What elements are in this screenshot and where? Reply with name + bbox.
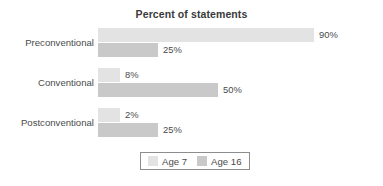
bar-value-age16: 50%	[218, 83, 242, 97]
legend-swatch-icon	[197, 156, 207, 166]
chart-legend: Age 7 Age 16	[140, 152, 250, 170]
chart-title: Percent of statements	[0, 8, 383, 20]
bar-group: Conventional 8% 50%	[0, 68, 383, 98]
bar-group: Preconventional 90% 25%	[0, 28, 383, 58]
bar-value-age16: 25%	[158, 43, 182, 57]
bar-value-age7: 2%	[120, 108, 139, 122]
legend-swatch-icon	[148, 156, 158, 166]
bar-age7	[98, 108, 120, 122]
bar-age7	[98, 68, 120, 82]
category-label: Preconventional	[0, 36, 94, 50]
legend-label: Age 7	[162, 156, 187, 167]
bar-value-age7: 90%	[314, 28, 338, 42]
bar-value-age7: 8%	[120, 68, 139, 82]
bar-group: Postconventional 2% 25%	[0, 108, 383, 138]
category-label: Postconventional	[0, 116, 94, 130]
legend-item-age16: Age 16	[197, 156, 241, 167]
bar-age7	[98, 28, 314, 42]
bar-age16	[98, 123, 158, 137]
legend-label: Age 16	[211, 156, 241, 167]
bar-age16	[98, 83, 218, 97]
category-label: Conventional	[0, 76, 94, 90]
plot-area: Preconventional 90% 25% Conventional 8% …	[0, 26, 383, 146]
bar-value-age16: 25%	[158, 123, 182, 137]
legend-item-age7: Age 7	[148, 156, 187, 167]
bar-age16	[98, 43, 158, 57]
bar-chart: Percent of statements Preconventional 90…	[0, 0, 383, 186]
